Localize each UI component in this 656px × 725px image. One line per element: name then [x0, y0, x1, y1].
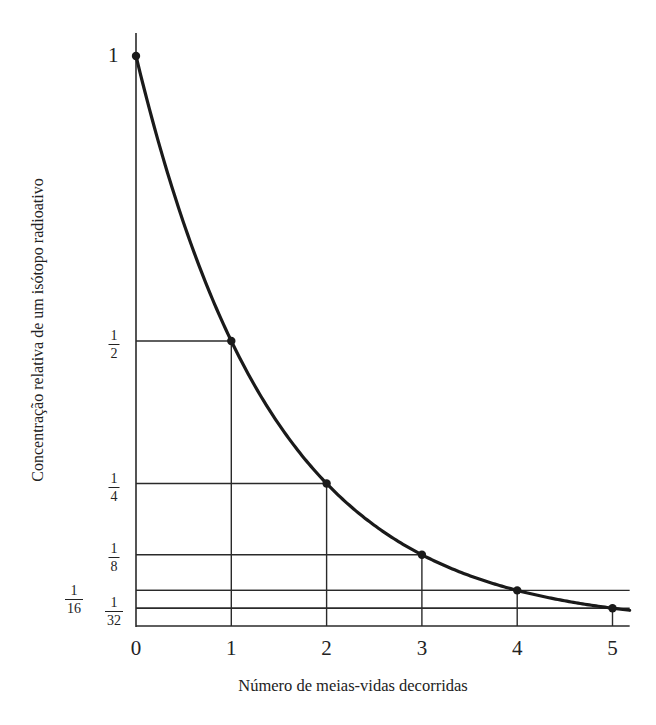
data-point-marker [132, 52, 140, 60]
data-point-marker [513, 586, 521, 594]
frac-numerator: 1 [69, 584, 80, 598]
data-point-marker [227, 337, 235, 345]
plot-area [0, 0, 656, 725]
frac-bar [109, 344, 120, 345]
data-point-marker [418, 551, 426, 559]
y-tick-1: 1 [108, 43, 119, 68]
frac-numerator: 1 [109, 472, 120, 486]
frac-bar [65, 599, 83, 600]
y-tick-one-eighth: 1 8 [109, 542, 120, 574]
decay-curve [136, 56, 630, 610]
y-tick-one-half: 1 2 [109, 329, 120, 361]
half-life-decay-chart: Concentração relativa de um isótopo radi… [0, 0, 656, 725]
frac-numerator: 1 [109, 329, 120, 343]
x-tick-3: 3 [417, 636, 428, 661]
frac-bar [109, 557, 120, 558]
frac-denominator: 2 [109, 347, 120, 361]
frac-numerator: 1 [109, 542, 120, 556]
x-tick-5: 5 [607, 636, 618, 661]
x-tick-2: 2 [321, 636, 332, 661]
frac-denominator: 8 [109, 560, 120, 574]
x-tick-1: 1 [226, 636, 237, 661]
data-point-marker [322, 479, 330, 487]
y-tick-one-thirty-second: 1 32 [105, 596, 123, 628]
drop-lines [136, 341, 630, 626]
frac-numerator: 1 [109, 596, 120, 610]
x-tick-0: 0 [131, 636, 142, 661]
frac-bar [109, 487, 120, 488]
data-markers [132, 52, 617, 613]
axes [136, 33, 630, 627]
x-axis-title: Número de meias-vidas decorridas [0, 676, 656, 696]
x-tick-4: 4 [512, 636, 523, 661]
frac-denominator: 4 [109, 490, 120, 504]
data-point-marker [608, 604, 616, 612]
y-axis-title-text: Concentração relativa de um isótopo radi… [29, 178, 47, 481]
y-tick-one-sixteenth: 1 16 [65, 584, 83, 616]
frac-denominator: 16 [65, 602, 83, 616]
frac-denominator: 32 [105, 614, 123, 628]
y-tick-one-quarter: 1 4 [109, 472, 120, 504]
frac-bar [105, 611, 123, 612]
